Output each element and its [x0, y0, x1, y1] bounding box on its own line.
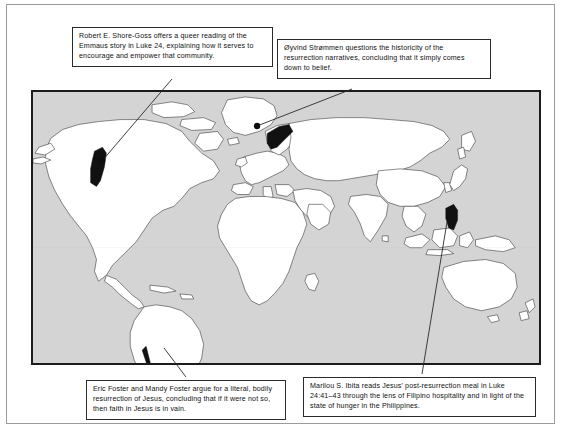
callout-shore-goss-text: Robert E. Shore-Goss offers a queer read… [79, 32, 266, 62]
land-russia [289, 118, 450, 181]
land-new-guinea [476, 236, 516, 252]
callout-strommen-text: Øyvind Strømmen questions the historicit… [284, 44, 484, 74]
land-sri-lanka [382, 236, 388, 242]
land-sumatra [404, 234, 430, 248]
land-hispaniola [180, 294, 194, 299]
land-balkans [275, 185, 295, 197]
land-sulawesi [460, 232, 474, 248]
callout-strommen: Øyvind Strømmen questions the historicit… [277, 39, 491, 79]
callout-ibita-text: Marilou S. Ibita reads Jesus' post-resur… [310, 382, 529, 412]
land-africa [218, 196, 307, 304]
land-tasmania [487, 315, 499, 323]
land-arctic-islands-2 [180, 118, 216, 131]
land-iberia [231, 183, 253, 195]
land-south-america [130, 305, 203, 363]
land-cuba [150, 285, 176, 293]
callout-ibita: Marilou S. Ibita reads Jesus' post-resur… [303, 377, 536, 417]
land-europe-west [239, 151, 289, 185]
land-india [349, 194, 389, 241]
land-japan [450, 165, 468, 191]
region-philippines-highlight [446, 204, 458, 230]
callout-foster-text: Eric Foster and Mandy Foster argue for a… [93, 385, 279, 415]
land-north-america [45, 120, 220, 282]
land-iceland [227, 137, 239, 145]
land-new-zealand-south [519, 311, 529, 321]
land-java [426, 250, 454, 256]
land-indochina [402, 206, 426, 232]
world-map-svg [33, 92, 539, 363]
land-china [376, 169, 445, 206]
figure-canvas: Robert E. Shore-Goss offers a queer read… [0, 0, 568, 433]
world-map-plate [31, 90, 541, 365]
land-arctic-islands [152, 102, 195, 118]
land-madagascar [305, 273, 319, 291]
land-central-america [104, 275, 144, 309]
land-baffin [195, 131, 224, 151]
land-australia [442, 260, 517, 311]
land-borneo [432, 228, 458, 248]
callout-foster: Eric Foster and Mandy Foster argue for a… [86, 380, 286, 420]
callout-shore-goss: Robert E. Shore-Goss offers a queer read… [72, 27, 273, 67]
